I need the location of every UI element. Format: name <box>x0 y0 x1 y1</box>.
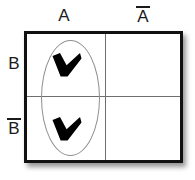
karnaugh-map-diagram: A A B B <box>0 0 195 180</box>
column-label-a-not-text: A <box>137 6 149 27</box>
check-mark-icon <box>51 52 83 78</box>
kmap-grid <box>24 31 183 163</box>
cell-a-not-b[interactable] <box>106 34 183 96</box>
cell-a-b-not[interactable] <box>27 98 104 160</box>
check-mark-icon <box>51 116 83 142</box>
row-label-b-text: B <box>8 54 19 73</box>
cell-a-not-b-not[interactable] <box>106 98 183 160</box>
row-label-b: B <box>4 54 24 74</box>
column-label-a: A <box>44 6 84 26</box>
cell-a-b[interactable] <box>27 34 104 96</box>
row-label-b-not: B <box>4 118 24 139</box>
row-label-b-not-text: B <box>8 118 19 139</box>
column-label-a-text: A <box>58 6 70 25</box>
column-label-a-not: A <box>123 6 163 27</box>
